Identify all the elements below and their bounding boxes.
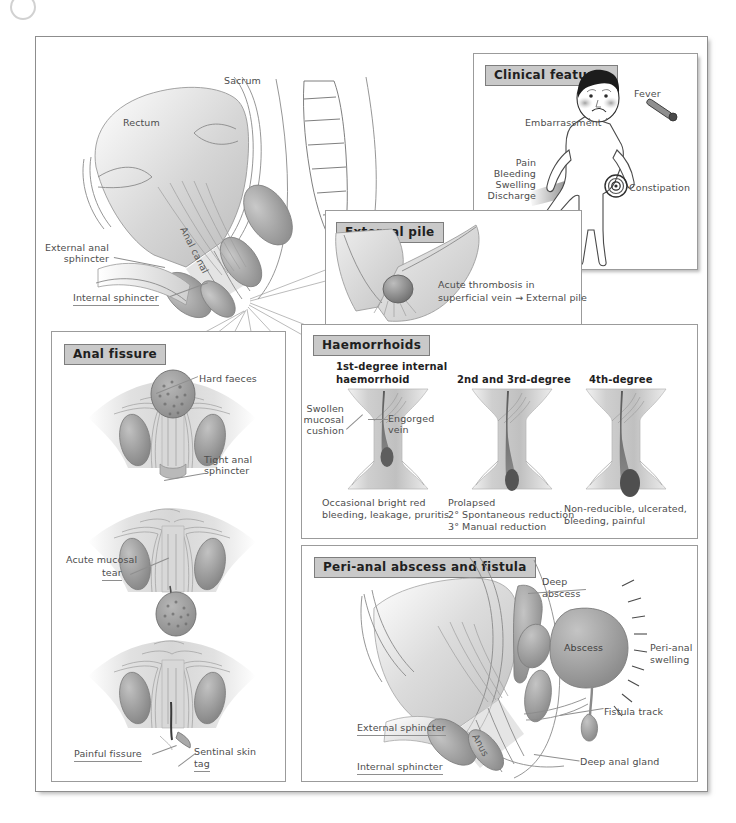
- label-swelling: Swelling: [474, 179, 536, 191]
- label-internal-sphincter: Internal sphincter: [73, 292, 159, 306]
- haemorrhoids-title: Haemorrhoids: [313, 335, 430, 356]
- label-sentinal-skin-line2: tag: [194, 758, 210, 772]
- haemorrhoids-panel: Haemorrhoids 1st-degree internal haemorr…: [301, 324, 698, 539]
- label-fistula-track: Fistula track: [604, 706, 663, 718]
- haemorrhoid-col3-caption-line1: Non-reducible, ulcerated,: [564, 503, 687, 515]
- label-constipation: Constipation: [629, 182, 690, 194]
- label-tight-anal-line1: Tight anal: [204, 454, 252, 466]
- label-sentinal-skin-line1: Sentinal skin: [194, 746, 256, 758]
- haemorrhoid-second-third-degree-svg: [454, 387, 572, 497]
- haemorrhoid-col1-heading-line1: 1st-degree internal: [336, 361, 447, 373]
- haemorrhoid-col3-heading-line1: 4th-degree: [589, 374, 653, 386]
- haemorrhoid-engorged-line2: vein: [388, 424, 409, 436]
- label-external-anal-sphincter-line1: External anal: [24, 242, 109, 254]
- haemorrhoid-fourth-degree-svg: [568, 387, 686, 499]
- haemorrhoid-col2-caption-line1: Prolapsed: [448, 497, 495, 509]
- label-embarrassment: Embarrassment: [525, 117, 602, 129]
- haemorrhoid-col2-caption-line2: 2° Spontaneous reduction: [448, 509, 574, 521]
- haemorrhoid-swollen-line3: cushion: [300, 425, 344, 437]
- label-abscess: Abscess: [564, 642, 603, 654]
- haemorrhoid-col1-caption-line2: bleeding, leakage, pruritis: [322, 509, 449, 521]
- thermometer-icon: [646, 98, 677, 121]
- label-rectum: Rectum: [123, 117, 160, 129]
- external-pile-svg: [326, 211, 581, 325]
- label-discharge: Discharge: [474, 190, 536, 202]
- label-fever: Fever: [634, 88, 661, 100]
- outer-figure-frame: Rectum Sacrum Anal canal External anal s…: [35, 36, 708, 792]
- haemorrhoid-swollen-line2: mucosal: [300, 414, 344, 426]
- external-pile-caption-line1: Acute thrombosis in: [438, 279, 535, 291]
- label-pain: Pain: [474, 157, 536, 169]
- haemorrhoid-swollen-line1: Swollen: [300, 403, 344, 415]
- perianal-abscess-svg: [302, 546, 697, 781]
- perianal-abscess-panel: Peri-anal abscess and fistula: [301, 545, 698, 782]
- label-external-anal-sphincter-line2: sphincter: [24, 253, 109, 265]
- anal-fissure-figure-3-svg: [80, 632, 265, 754]
- haemorrhoid-engorged-line1: Engorged: [388, 413, 434, 425]
- label-sacrum: Sacrum: [224, 75, 261, 87]
- label-perianal-swelling-line1: Peri-anal: [650, 642, 692, 654]
- anal-fissure-panel: Anal fissure: [51, 331, 286, 782]
- label-acute-mucosal-line2: tear: [102, 567, 122, 581]
- haemorrhoid-col3-caption-line2: bleeding, painful: [564, 515, 645, 527]
- label-perianal-swelling-line2: swelling: [650, 654, 689, 666]
- label-painful-fissure: Painful fissure: [74, 748, 142, 762]
- haemorrhoid-col2-heading-line1: 2nd and 3rd-degree: [457, 374, 571, 386]
- label-bleeding: Bleeding: [474, 168, 536, 180]
- label-tight-anal-line2: sphincter: [204, 465, 249, 477]
- label-acute-mucosal-line1: Acute mucosal: [66, 554, 137, 566]
- external-pile-panel: External pile: [325, 210, 582, 326]
- circle-mark-icon: [10, 0, 36, 20]
- external-pile-caption-line2: superficial vein → External pile: [438, 292, 587, 304]
- haemorrhoid-col1-heading-line2: haemorrhoid: [336, 374, 409, 386]
- anal-fissure-title: Anal fissure: [64, 344, 166, 365]
- label-external-sphincter: External sphincter: [357, 722, 446, 736]
- haemorrhoid-first-degree-svg: [330, 387, 448, 491]
- label-hard-faeces: Hard faeces: [199, 373, 257, 385]
- label-deep-abscess-line1: Deep: [542, 576, 567, 588]
- figure-page: Rectum Sacrum Anal canal External anal s…: [0, 0, 736, 823]
- site-target-icon: [605, 175, 627, 197]
- label-internal-sphincter: Internal sphincter: [357, 761, 443, 775]
- haemorrhoid-col1-caption-line1: Occasional bright red: [322, 497, 426, 509]
- haemorrhoid-col2-caption-line3: 3° Manual reduction: [448, 521, 546, 533]
- label-deep-anal-gland: Deep anal gland: [580, 756, 659, 768]
